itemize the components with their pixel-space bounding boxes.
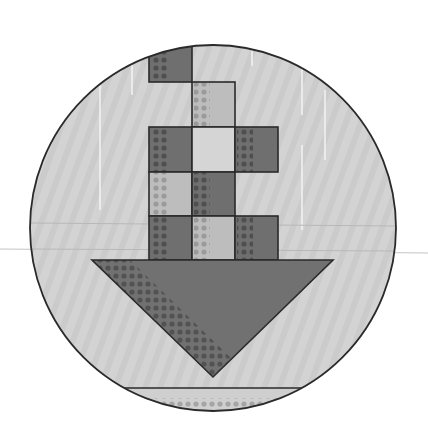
download-icon <box>0 0 428 445</box>
grid-cell-mid <box>192 82 235 127</box>
base-bar <box>30 388 400 428</box>
grid-cell-dark <box>192 172 235 216</box>
download-icon-stage: Download <box>0 0 428 445</box>
grid-cell-dark <box>235 127 278 172</box>
grid-cell-dark <box>149 38 192 82</box>
grid-cell-mid <box>149 172 192 216</box>
grid-cell-dark <box>149 127 192 172</box>
grid-cell-dark <box>235 216 278 260</box>
grid-cell-dark <box>149 216 192 260</box>
grid-cell-light <box>192 127 235 172</box>
grid-cell-mid <box>192 216 235 260</box>
